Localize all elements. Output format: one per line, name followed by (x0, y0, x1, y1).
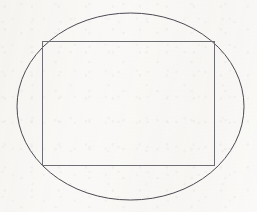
geometry-figure (0, 0, 257, 212)
figure-canvas (0, 0, 257, 212)
inscribed-rectangle-outline (43, 42, 215, 166)
